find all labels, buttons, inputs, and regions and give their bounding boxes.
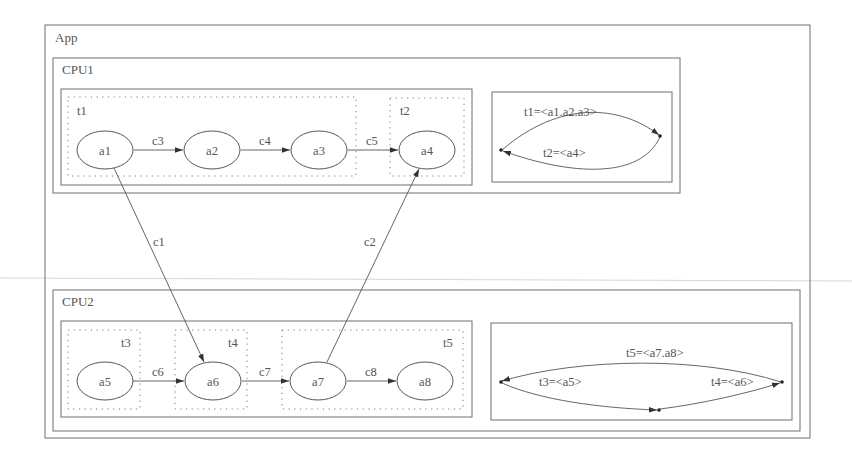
task-t3-label: t3 (121, 336, 131, 350)
actor-a7[interactable]: a7 (290, 362, 346, 400)
schedule-state-dot (658, 134, 662, 138)
cpu2-label: CPU2 (62, 294, 94, 309)
channel-c7-label: c7 (259, 365, 271, 379)
cpu1-schedule-box: t1=<a1.a2.a3> t2=<a4> (492, 92, 672, 182)
channel-c2-label: c2 (364, 235, 376, 249)
channel-c1-label: c1 (153, 235, 165, 249)
diagram-canvas: App CPU1 t1 t2 t1=<a1.a2.a3> t2=<a4> (0, 0, 852, 453)
schedule-edge-t3-label: t3=<a5> (539, 375, 582, 389)
schedule-state-dot (657, 408, 661, 412)
actor-a1-label: a1 (99, 144, 111, 158)
actor-a5[interactable]: a5 (77, 362, 133, 400)
channel-c3-label: c3 (152, 134, 164, 148)
actor-a2-label: a2 (206, 144, 218, 158)
scan-artifact-line (0, 278, 852, 281)
actor-a1[interactable]: a1 (77, 131, 133, 169)
channel-c1 (114, 168, 204, 362)
actor-a7-label: a7 (312, 375, 324, 389)
channel-c8-label: c8 (365, 365, 377, 379)
schedule-state-dot (499, 148, 503, 152)
actor-a3[interactable]: a3 (291, 131, 347, 169)
cpu1-label: CPU1 (62, 62, 94, 77)
actor-a3-label: a3 (313, 144, 325, 158)
schedule-state-dot (780, 380, 784, 384)
actor-a4-label: a4 (421, 144, 434, 158)
actor-a6-label: a6 (207, 375, 219, 389)
app-label: App (55, 30, 77, 45)
cpu2-schedule-box: t5=<a7.a8> t3=<a5> t4=<a6> (491, 323, 792, 420)
schedule-edge-t1-label: t1=<a1.a2.a3> (524, 105, 597, 119)
task-t4-label: t4 (228, 336, 238, 350)
channel-c6-label: c6 (152, 365, 164, 379)
actor-a5-label: a5 (99, 375, 111, 389)
actor-a8[interactable]: a8 (397, 362, 453, 400)
channel-c2 (327, 169, 419, 362)
actor-a2[interactable]: a2 (184, 131, 240, 169)
schedule-edge-t4-label: t4=<a6> (711, 375, 754, 389)
actor-a6[interactable]: a6 (185, 362, 241, 400)
task-t2-label: t2 (400, 104, 410, 118)
task-t1-label: t1 (77, 104, 87, 118)
schedule-edge-t2-label: t2=<a4> (543, 146, 586, 160)
actor-a8-label: a8 (419, 375, 431, 389)
cpu2-frame: CPU2 t3 t4 t5 t5=<a7.a8> t3=<a5> t4=<a6> (53, 290, 800, 431)
schedule-edge-t5-label: t5=<a7.a8> (626, 346, 684, 360)
task-t5-label: t5 (443, 336, 453, 350)
channel-c4-label: c4 (259, 134, 272, 148)
cpu1-frame: CPU1 t1 t2 t1=<a1.a2.a3> t2=<a4> (53, 58, 680, 193)
channel-c5-label: c5 (366, 134, 378, 148)
schedule-state-dot (499, 380, 503, 384)
actor-a4[interactable]: a4 (399, 131, 455, 169)
